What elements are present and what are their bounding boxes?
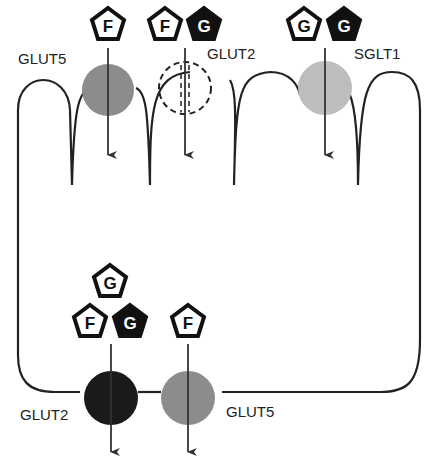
glucose-icon: G [114, 305, 146, 336]
fructose-icon: F [172, 305, 204, 336]
enterocyte-diagram: F F G G G G F G F GLUT5 GLUT2 SGLT1 GLUT… [0, 0, 433, 463]
svg-text:G: G [197, 17, 210, 36]
glucose-icon: G [328, 8, 360, 39]
label-glut2-baso: GLUT2 [20, 406, 68, 423]
svg-text:F: F [183, 314, 193, 333]
label-glut5-apical: GLUT5 [18, 50, 66, 67]
diagram-canvas: F F G G G G F G F [0, 0, 433, 463]
glucose-icon: G [94, 265, 126, 296]
svg-text:G: G [297, 17, 310, 36]
label-sglt1: SGLT1 [354, 45, 400, 62]
glucose-icon: G [188, 8, 220, 39]
cell-membrane [18, 72, 420, 392]
svg-text:F: F [160, 17, 170, 36]
svg-text:G: G [103, 274, 116, 293]
svg-text:G: G [337, 17, 350, 36]
label-glut2-apical: GLUT2 [207, 45, 255, 62]
label-glut5-baso: GLUT5 [226, 403, 274, 420]
svg-text:F: F [85, 314, 95, 333]
svg-text:G: G [123, 314, 136, 333]
svg-text:F: F [103, 17, 113, 36]
fructose-icon: F [92, 8, 124, 39]
glucose-icon: G [288, 8, 320, 39]
fructose-icon: F [149, 8, 181, 39]
fructose-icon: F [74, 305, 106, 336]
